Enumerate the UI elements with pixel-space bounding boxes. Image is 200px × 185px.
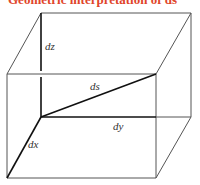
box-diagram: dz ds dy dx	[0, 0, 200, 185]
bottom-right-connector	[156, 117, 191, 178]
dy-label: dy	[113, 120, 124, 132]
top-left-connector	[7, 13, 41, 74]
dx-label: dx	[28, 138, 39, 150]
dz-label: dz	[45, 40, 56, 52]
top-right-connector	[156, 13, 191, 74]
differential-vectors	[7, 13, 156, 178]
ds-label: ds	[90, 80, 100, 92]
